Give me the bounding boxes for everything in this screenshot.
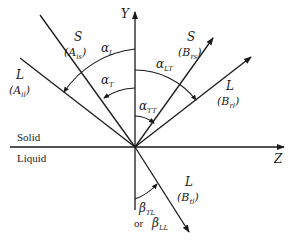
z-axis-label: Z [273,152,283,166]
alpha-TT-arc [135,116,154,123]
incident-shear-mode: S [74,30,82,44]
reflected-longitudinal-mode: L [225,79,234,93]
incident-shear-ray [40,15,135,147]
beta-LL-label: βLL [151,216,169,232]
incident-longitudinal-amplitude: (Ail) [9,84,30,99]
alpha-LT-label: αLT [156,57,174,73]
reflected-shear-amplitude: (Brs) [178,46,202,61]
solid-label: Solid [17,131,41,143]
alpha-TT-label: αTT [139,99,158,115]
alpha-T-label: αT [101,73,115,89]
beta-TL-label: βTL [138,201,156,217]
alpha-T-arc [104,88,135,98]
transmitted-longitudinal-amplitude: (Btl) [177,191,199,206]
alpha-L-label: αL [101,41,114,57]
beta-arc [135,184,157,199]
or-label: or [134,217,144,229]
y-axis-label: Y [121,7,130,21]
incident-shear-amplitude: (Ais) [64,46,86,61]
liquid-label: Liquid [17,152,47,164]
wave-reflection-diagram: Y Z Solid Liquid S (Ais) L (Ail) S (Brs)… [0,0,291,244]
reflected-longitudinal-amplitude: (Brl) [217,95,239,110]
incident-longitudinal-mode: L [15,68,24,82]
transmitted-longitudinal-mode: L [184,175,193,189]
reflected-shear-mode: S [187,30,195,44]
